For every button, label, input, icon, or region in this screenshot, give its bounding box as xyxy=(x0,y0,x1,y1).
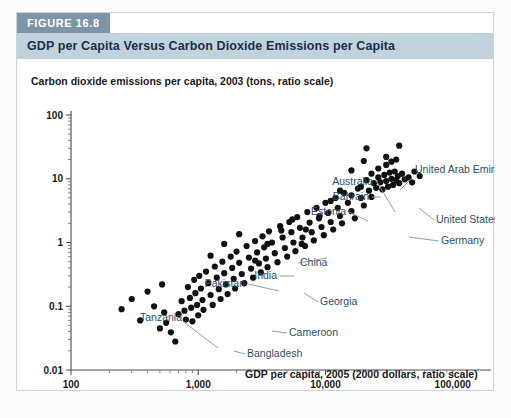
data-point xyxy=(278,227,284,233)
data-point xyxy=(233,249,239,255)
data-point xyxy=(264,241,270,247)
data-point xyxy=(198,285,204,291)
data-point xyxy=(179,298,185,304)
annotation-label: United Arab Emirates xyxy=(415,163,495,175)
annotation-label: Georgia xyxy=(320,295,358,307)
data-point xyxy=(361,158,367,164)
data-point xyxy=(248,266,254,272)
data-point xyxy=(129,296,135,302)
data-point xyxy=(396,143,402,149)
x-tick-label: 100 xyxy=(63,379,80,390)
data-point xyxy=(183,316,189,322)
data-point xyxy=(304,209,310,215)
data-point xyxy=(274,259,280,265)
data-point xyxy=(252,238,258,244)
data-point xyxy=(236,260,242,266)
annotation-label: China xyxy=(300,256,328,268)
data-point xyxy=(399,171,405,177)
annotation-label: Australia xyxy=(332,175,373,187)
data-point xyxy=(200,307,206,313)
annotation-leader xyxy=(304,293,318,302)
data-point xyxy=(192,290,198,296)
x-axis-title: GDP per capita, 2005 (2000 dollars, rati… xyxy=(245,368,478,380)
data-point xyxy=(196,273,202,279)
annotation-label: United States xyxy=(436,213,495,225)
figure-title-band: GDP per Capita Versus Carbon Dioxide Emi… xyxy=(17,33,493,60)
data-point xyxy=(363,145,369,151)
data-point xyxy=(288,229,294,235)
data-point xyxy=(299,234,305,240)
annotation-leader xyxy=(349,212,368,221)
data-point xyxy=(280,234,286,240)
y-tick-label: 10 xyxy=(52,173,64,184)
data-point xyxy=(157,325,163,331)
data-point xyxy=(309,229,315,235)
figure-number-tab: FIGURE 16.8 xyxy=(17,13,110,33)
annotation-label: Estonia xyxy=(311,205,346,217)
figure-card: FIGURE 16.8 GDP per Capita Versus Carbon… xyxy=(16,12,494,391)
data-point xyxy=(181,308,187,314)
x-tick-label: 1,000 xyxy=(186,379,211,390)
y-tick-label: 1 xyxy=(57,237,63,248)
data-point xyxy=(299,241,305,247)
data-point xyxy=(221,270,227,276)
annotation-label: Tanzania xyxy=(140,311,182,323)
data-point xyxy=(282,245,288,251)
data-point xyxy=(185,284,191,290)
data-point xyxy=(303,226,309,232)
data-point xyxy=(208,292,214,298)
data-point xyxy=(194,302,200,308)
annotation-leader xyxy=(419,208,434,220)
data-point xyxy=(187,295,193,301)
data-point xyxy=(297,225,303,231)
data-point xyxy=(119,306,125,312)
data-point xyxy=(328,219,334,225)
data-point xyxy=(228,254,234,260)
data-point xyxy=(383,154,389,160)
data-point xyxy=(203,269,209,275)
data-point xyxy=(221,241,227,247)
annotation-leader xyxy=(409,237,439,241)
data-point xyxy=(373,185,379,191)
x-tick-label: 100,000 xyxy=(435,379,472,390)
data-point xyxy=(289,216,295,222)
annotation-label: Germany xyxy=(441,234,485,246)
data-point xyxy=(229,265,235,271)
data-point xyxy=(212,263,218,269)
data-point xyxy=(199,297,205,303)
data-point xyxy=(191,277,197,283)
annotation-leader xyxy=(185,323,218,348)
data-point xyxy=(210,302,216,308)
data-point xyxy=(266,228,272,234)
data-point xyxy=(145,289,151,295)
y-tick-label: 0.1 xyxy=(49,301,63,312)
annotation-label: India xyxy=(254,269,277,281)
data-point xyxy=(311,237,317,243)
data-point xyxy=(218,296,224,302)
data-point xyxy=(151,303,157,309)
y-tick-label: 100 xyxy=(46,110,63,121)
data-point xyxy=(254,249,260,255)
data-point xyxy=(381,172,387,178)
data-point xyxy=(318,224,324,230)
data-point xyxy=(188,305,194,311)
data-point xyxy=(330,226,336,232)
axis-lines xyxy=(71,111,491,370)
data-point xyxy=(225,291,231,297)
data-point xyxy=(272,250,278,256)
data-point xyxy=(393,157,399,163)
data-point xyxy=(195,312,201,318)
data-point xyxy=(361,202,367,208)
data-point xyxy=(307,220,313,226)
data-point xyxy=(383,162,389,168)
data-point xyxy=(259,233,265,239)
data-point xyxy=(252,258,258,264)
data-point xyxy=(348,167,354,173)
annotation-leader xyxy=(234,351,245,354)
figure-title: GDP per Capita Versus Carbon Dioxide Emi… xyxy=(17,39,395,53)
figure-number-label: FIGURE 16.8 xyxy=(17,17,100,29)
data-point xyxy=(290,239,296,245)
data-point xyxy=(246,255,252,261)
data-point xyxy=(172,338,178,344)
annotation-leader xyxy=(272,331,287,333)
